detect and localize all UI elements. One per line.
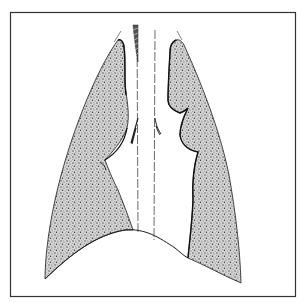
lung-diagram-svg bbox=[0, 0, 303, 303]
lung-illustration bbox=[0, 0, 303, 303]
